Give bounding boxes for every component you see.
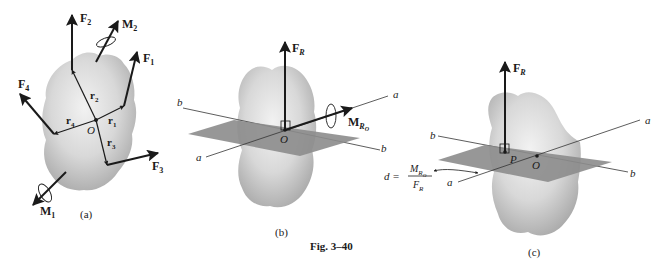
svg-text:M2: M2 [122,17,137,33]
axis-label-a-top-c: a [645,114,651,126]
M2-label: M [122,17,133,31]
origin-label-a: O [87,124,95,136]
MRO-label: M [348,115,359,129]
svg-text:FR: FR [513,61,526,77]
rigid-body-a [42,53,136,191]
origin-label-b: O [280,133,288,145]
FR-label-c: F [513,61,520,75]
plane-c [438,145,612,182]
panel-c: FR a a b b P O d = MRO FR (c) [384,61,651,259]
axis-label-b-left-c: b [430,129,436,141]
axis-label-b-right-c: b [630,167,636,179]
svg-text:M1: M1 [40,204,55,220]
axis-label-b-right-b: b [381,142,387,154]
svg-text:FR: FR [292,41,305,57]
svg-text:F3: F3 [152,159,163,175]
panel-a-label: (a) [80,208,93,221]
F4-label: F [18,77,25,91]
axis-label-b-left-b: b [177,96,183,108]
FR-label-b: F [292,41,299,55]
axis-label-a-bottom-c: a [447,176,453,188]
origin-point-b [283,128,287,132]
svg-text:F2: F2 [80,11,91,27]
statics-resultant-figure: F2 F1 F4 F3 M2 M1 r2 r1 r4 r3 O (a) FR M… [0,0,663,261]
origin-point-c [535,154,539,158]
axis-label-a-top-b: a [393,88,399,100]
point-P-label: P [509,153,517,165]
svg-text:F1: F1 [143,51,154,67]
panel-b: FR MRO a a b b O (b) [177,41,399,239]
F3-label: F [152,159,159,173]
M1-label: M [40,204,51,218]
svg-text:MRO: MRO [348,115,370,132]
origin-point-a [94,118,98,122]
F2-label: F [80,11,87,25]
svg-text:F4: F4 [18,77,29,93]
F1-label: F [143,51,150,65]
point-P [503,150,507,154]
d-dimension-arrow [434,170,478,173]
panel-c-label: (c) [528,246,541,259]
origin-label-c: O [532,159,540,171]
figure-caption: Fig. 3–40 [310,240,353,252]
svg-text:FR: FR [412,179,424,193]
distance-lhs: d = [384,170,400,182]
panel-a: F2 F1 F4 F3 M2 M1 r2 r1 r4 r3 O (a) [18,11,163,221]
axis-label-a-bottom-b: a [196,151,202,163]
panel-b-label: (b) [275,226,288,239]
